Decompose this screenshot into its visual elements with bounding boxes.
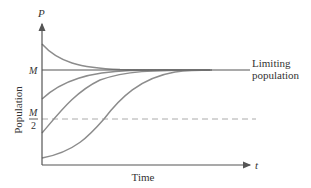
x-axis-symbol: t (255, 159, 259, 171)
x-axis-label: Time (132, 171, 155, 183)
y-tick-half-denominator: 2 (31, 120, 36, 131)
curve-near-zero (42, 70, 212, 158)
y-tick-m: M (28, 65, 38, 76)
limit-annotation-line1: Limiting (252, 57, 291, 69)
curve-below-half (42, 70, 210, 133)
y-tick-half-numerator: M (28, 107, 38, 118)
curve-above-limit (42, 44, 210, 70)
y-axis-symbol: P (37, 7, 45, 19)
y-axis-label: Population (12, 86, 24, 134)
limit-annotation-line2: population (252, 69, 300, 81)
logistic-growth-chart: P t M M 2 Population Time Limiting popul… (0, 0, 311, 188)
